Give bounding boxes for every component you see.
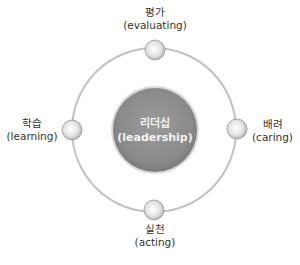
label-left: 학습 (learning) — [2, 117, 62, 143]
label-left-ko: 학습 — [2, 117, 62, 130]
label-top: 평가 (evaluating) — [100, 6, 210, 32]
label-top-ko: 평가 — [100, 6, 210, 19]
label-bottom-ko: 실천 — [110, 223, 200, 236]
node-bottom — [144, 200, 164, 220]
label-right-ko: 배려 — [245, 118, 300, 131]
node-left — [62, 120, 82, 140]
label-right-en: (caring) — [245, 131, 300, 144]
label-top-en: (evaluating) — [100, 19, 210, 32]
center-label-ko: 리더십 — [105, 117, 205, 131]
label-bottom: 실천 (acting) — [110, 223, 200, 249]
label-left-en: (learning) — [2, 130, 62, 143]
center-label-en: (leadership) — [105, 131, 205, 145]
label-bottom-en: (acting) — [110, 236, 200, 249]
center-label: 리더십 (leadership) — [105, 117, 205, 145]
node-top — [145, 40, 165, 60]
label-right: 배려 (caring) — [245, 118, 300, 144]
node-right — [227, 119, 247, 139]
